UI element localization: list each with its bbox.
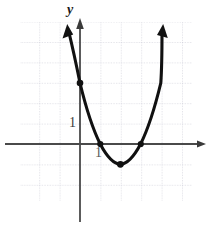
y-axis-label: y: [67, 3, 73, 17]
coordinate-grid: [20, 22, 192, 201]
point-x-intercept-right: [138, 141, 144, 147]
point-y-intercept: [77, 80, 84, 87]
graph-canvas: [0, 0, 208, 237]
point-vertex: [117, 161, 124, 168]
y-axis-tick-label-1: 1: [69, 116, 76, 130]
x-axis-arrow-icon: [197, 140, 206, 147]
x-axis-tick-label-1: 1: [95, 146, 102, 160]
parabola-graph-figure: y 1 1: [0, 0, 208, 237]
